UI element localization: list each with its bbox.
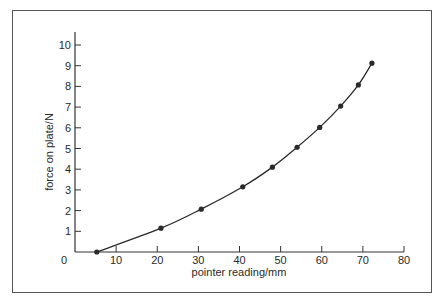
data-point bbox=[240, 184, 245, 189]
y-tick-label: 2 bbox=[65, 205, 71, 217]
data-point bbox=[199, 207, 204, 212]
x-ticks: 01020304050607080 bbox=[61, 246, 410, 266]
x-tick-label: 30 bbox=[192, 254, 204, 266]
data-point bbox=[94, 249, 99, 254]
y-axis-label: force on plate/N bbox=[43, 113, 55, 191]
data-point bbox=[294, 145, 299, 150]
y-tick-label: 10 bbox=[59, 39, 71, 51]
x-tick-label: 50 bbox=[275, 254, 287, 266]
x-tick-label: 0 bbox=[61, 254, 67, 266]
data-point bbox=[369, 61, 374, 66]
y-tick-label: 4 bbox=[65, 163, 71, 175]
y-tick-label: 6 bbox=[65, 122, 71, 134]
x-tick-label: 60 bbox=[316, 254, 328, 266]
x-tick-label: 80 bbox=[398, 254, 410, 266]
data-point bbox=[270, 165, 275, 170]
y-tick-label: 1 bbox=[65, 225, 71, 237]
data-point bbox=[356, 82, 361, 87]
x-tick-label: 70 bbox=[357, 254, 369, 266]
data-point bbox=[158, 226, 163, 231]
series-group bbox=[94, 61, 374, 255]
series-curve bbox=[97, 63, 372, 252]
y-ticks: 12345678910 bbox=[59, 39, 81, 237]
data-point bbox=[317, 125, 322, 130]
x-tick-label: 10 bbox=[110, 254, 122, 266]
x-tick-label: 20 bbox=[151, 254, 163, 266]
x-axis-label: pointer reading/mm bbox=[192, 266, 287, 278]
y-tick-label: 8 bbox=[65, 80, 71, 92]
chart: 01020304050607080 12345678910 pointer re… bbox=[0, 0, 439, 301]
y-tick-label: 3 bbox=[65, 184, 71, 196]
y-tick-label: 9 bbox=[65, 60, 71, 72]
data-point bbox=[338, 103, 343, 108]
x-tick-label: 40 bbox=[233, 254, 245, 266]
y-tick-label: 7 bbox=[65, 101, 71, 113]
axes bbox=[75, 32, 404, 252]
y-tick-label: 5 bbox=[65, 143, 71, 155]
